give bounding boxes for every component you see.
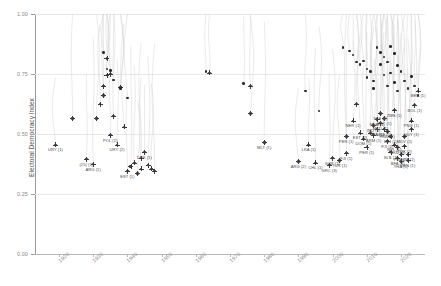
data-point-label: ARG (1) bbox=[85, 167, 100, 172]
data-point bbox=[109, 69, 112, 72]
data-point bbox=[150, 168, 153, 171]
data-point-label: FJI (1) bbox=[340, 156, 352, 161]
data-point-label: TUR (2) bbox=[397, 149, 412, 154]
data-point bbox=[342, 46, 345, 49]
trend-line bbox=[377, 14, 378, 120]
data-point bbox=[106, 57, 109, 60]
data-point bbox=[307, 144, 310, 147]
trend-line bbox=[134, 66, 135, 163]
trend-line bbox=[337, 75, 340, 160]
data-point bbox=[372, 87, 375, 90]
data-point bbox=[366, 76, 369, 79]
y-tick-label: 0.25 bbox=[2, 191, 28, 197]
data-point bbox=[297, 160, 300, 163]
trend-line bbox=[205, 14, 206, 72]
data-point-label: VEN (1) bbox=[400, 163, 415, 168]
x-tick-mark bbox=[401, 254, 402, 257]
x-tick-mark bbox=[230, 254, 231, 257]
x-tick-mark bbox=[298, 254, 299, 257]
trend-line bbox=[344, 14, 346, 136]
data-point bbox=[129, 165, 132, 168]
data-point-label: PNG (1) bbox=[404, 123, 419, 128]
trend-line bbox=[308, 78, 309, 145]
data-point bbox=[249, 85, 252, 88]
y-tick-label: 0.50 bbox=[2, 131, 28, 137]
data-point-label: ZMB (1) bbox=[387, 113, 402, 118]
trend-line bbox=[209, 14, 210, 73]
data-point bbox=[102, 94, 105, 97]
data-point-label: BEN (1) bbox=[411, 93, 426, 98]
data-point-label: NIC (1) bbox=[401, 157, 415, 162]
trend-line bbox=[418, 14, 421, 91]
data-point bbox=[369, 70, 372, 73]
data-point bbox=[133, 162, 136, 165]
trend-line bbox=[397, 14, 398, 66]
data-point bbox=[410, 120, 413, 123]
trend-line bbox=[52, 78, 55, 145]
trend-line bbox=[114, 14, 115, 80]
trend-line bbox=[113, 14, 114, 116]
data-point-label: TUR (1) bbox=[332, 163, 347, 168]
data-point bbox=[407, 87, 410, 90]
trend-line bbox=[131, 45, 132, 166]
data-point-label: GRC (3) bbox=[321, 168, 337, 173]
trend-line bbox=[93, 37, 94, 164]
data-point-label: GUY (1) bbox=[376, 121, 391, 126]
trend-line bbox=[348, 14, 350, 51]
data-point-label: MKD (1) bbox=[373, 126, 389, 131]
data-point bbox=[396, 90, 399, 93]
data-point bbox=[109, 73, 112, 76]
trend-line bbox=[124, 14, 127, 98]
trend-line bbox=[341, 14, 344, 48]
x-tick-mark bbox=[59, 254, 60, 257]
data-point bbox=[208, 72, 211, 75]
trend-line bbox=[329, 74, 330, 165]
trend-line bbox=[305, 14, 306, 91]
trend-line bbox=[86, 74, 87, 159]
data-point bbox=[102, 51, 105, 54]
trend-line bbox=[295, 88, 298, 161]
trend-line bbox=[109, 68, 110, 135]
data-point-label: BOL (1) bbox=[407, 108, 422, 113]
trend-line bbox=[244, 16, 245, 83]
y-tick-mark bbox=[31, 254, 35, 255]
data-point bbox=[396, 64, 399, 67]
data-point bbox=[119, 87, 122, 90]
y-tick-label: 1.00 bbox=[2, 11, 28, 17]
trend-line bbox=[117, 60, 118, 145]
trend-line bbox=[314, 48, 315, 163]
trend-line bbox=[319, 26, 322, 111]
data-point bbox=[249, 112, 252, 115]
x-tick-mark bbox=[162, 254, 163, 257]
data-point bbox=[393, 81, 396, 84]
data-point bbox=[379, 63, 382, 66]
trend-line bbox=[362, 66, 363, 139]
trend-line bbox=[250, 14, 251, 86]
y-tick-label: 0.00 bbox=[2, 251, 28, 257]
data-point-label: URY (1) bbox=[48, 147, 63, 152]
data-point-label: NER (1) bbox=[346, 123, 361, 128]
trend-line bbox=[264, 21, 265, 142]
y-axis-label: Electoral Democracy Index bbox=[28, 98, 35, 177]
data-point bbox=[362, 60, 365, 63]
data-point bbox=[95, 117, 98, 120]
y-tick-label: 0.75 bbox=[2, 71, 28, 77]
x-tick-mark bbox=[196, 254, 197, 257]
x-tick-mark bbox=[127, 254, 128, 257]
plot-area: URY (1)(25) (1)ARG (1)POL (1)URY (2)EST … bbox=[35, 14, 425, 254]
trend-line bbox=[333, 49, 336, 158]
data-point bbox=[136, 172, 139, 175]
data-point-label: LKA (1) bbox=[302, 147, 316, 152]
trend-line bbox=[148, 56, 150, 165]
data-point bbox=[393, 109, 396, 112]
data-point-label: URY (2) bbox=[110, 147, 125, 152]
data-point bbox=[71, 117, 74, 120]
chart-root: Electoral Democracy Index 0.000.250.500.… bbox=[0, 0, 441, 286]
data-point bbox=[393, 52, 396, 55]
data-point bbox=[379, 51, 382, 54]
trend-line bbox=[390, 14, 393, 73]
data-point bbox=[379, 112, 382, 115]
x-tick-mark bbox=[367, 254, 368, 257]
data-point bbox=[242, 82, 245, 85]
data-point-label: POL (1) bbox=[103, 138, 118, 143]
